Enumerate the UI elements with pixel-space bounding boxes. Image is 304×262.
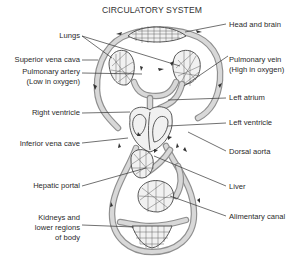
label-head-and-brain: Head and brain (229, 20, 281, 29)
label-pulmonary-vein-note: (High in oxygen) (229, 65, 285, 74)
label-kidneys-line3: of body (55, 233, 80, 242)
label-dorsal-aorta: Dorsal aorta (229, 147, 271, 156)
diagram-title: CIRCULATORY SYSTEM (102, 5, 202, 15)
label-inferior-vena-cava: Inferior vena cave (20, 139, 80, 148)
label-liver: Liver (229, 182, 246, 191)
pulmonary-vessels (134, 82, 182, 108)
label-pulmonary-artery-note: (Low in oxygen) (26, 77, 80, 86)
label-pulmonary-vein: Pulmonary vein (229, 55, 281, 64)
label-left-ventricle: Left ventricle (229, 118, 272, 127)
label-kidneys-line1: Kidneys and (38, 213, 80, 222)
circulatory-system-diagram: CIRCULATORY SYSTEM (0, 0, 304, 262)
label-hepatic-portal: Hepatic portal (33, 181, 80, 190)
kidneys-lower-body-capillaries (132, 226, 172, 248)
label-left-atrium: Left atrium (229, 93, 265, 102)
label-lungs: Lungs (59, 31, 80, 40)
label-kidneys-line2: lower regions (35, 223, 80, 232)
lung-left (109, 50, 134, 86)
label-pulmonary-artery: Pulmonary artery (22, 67, 80, 76)
label-right-ventricle: Right ventricle (32, 108, 80, 117)
label-superior-vena-cava: Superior vena cava (15, 55, 81, 64)
label-alimentary-canal: Alimentary canal (229, 212, 285, 221)
